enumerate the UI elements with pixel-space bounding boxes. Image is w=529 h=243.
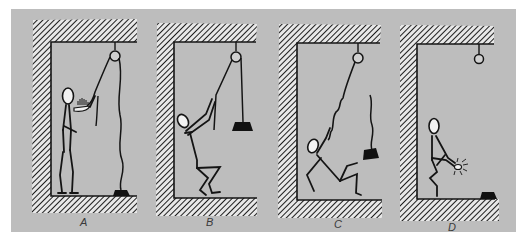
pulley-icon — [353, 53, 363, 63]
pulley-icon — [475, 55, 484, 64]
pulley-comic-figure: A B — [0, 0, 529, 243]
panel-label-d: D — [448, 221, 456, 233]
injured-hand-icon — [455, 165, 462, 170]
panel-label-b: B — [206, 216, 213, 228]
weight-icon — [232, 122, 253, 131]
person-head — [63, 88, 74, 104]
person-head — [429, 119, 439, 134]
panel-label-c: C — [334, 218, 342, 230]
weight-icon — [113, 190, 130, 196]
panel-label-a: A — [79, 216, 87, 228]
pulley-icon — [110, 51, 120, 61]
